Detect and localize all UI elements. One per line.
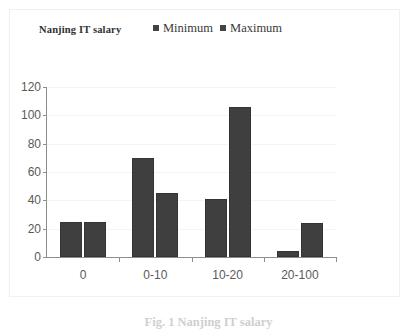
x-tick-mark [264,257,265,262]
y-tick-label: 80 [28,137,41,151]
x-tick-mark [192,257,193,262]
x-tick-label: 20-100 [281,268,318,282]
bar [205,199,227,257]
y-tick-label: 100 [21,108,41,122]
y-tick-label: 0 [34,250,41,264]
y-tick-label: 60 [28,165,41,179]
bar [60,222,82,257]
bar [156,193,178,257]
x-tick-label: 0 [80,268,87,282]
plot-area: 020406080100120 00-1010-2020-100 [46,87,336,258]
y-tick-mark [43,257,47,258]
bar [84,222,106,257]
bar [277,251,299,257]
bar [229,107,251,257]
bars-layer [47,87,336,257]
figure-caption: Fig. 1 Nanjing IT salary [0,315,417,330]
y-tick-label: 40 [28,193,41,207]
x-tick-mark [336,257,337,262]
x-tick-label: 10-20 [212,268,243,282]
x-tick-label: 0-10 [143,268,167,282]
y-tick-label: 120 [21,80,41,94]
bar [132,158,154,257]
y-tick-label: 20 [28,222,41,236]
x-tick-mark [119,257,120,262]
bar [301,223,323,257]
